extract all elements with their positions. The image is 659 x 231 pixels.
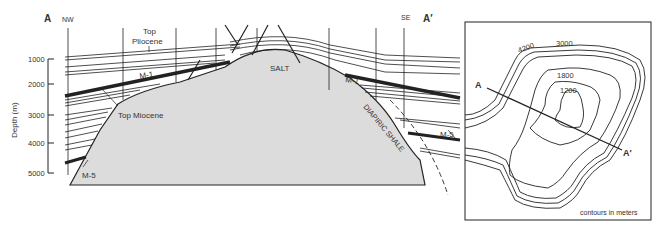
depth-tick: 5000 <box>28 169 45 178</box>
map-section-end-label: A′ <box>623 148 632 158</box>
depth-axis <box>48 59 54 173</box>
direction-nw: NW <box>62 16 74 23</box>
top-miocene-label: Top Miocene <box>118 111 164 120</box>
contour-map <box>465 22 651 220</box>
section-start-label: A <box>44 13 51 24</box>
contour-label-1200: 1200 <box>560 86 577 95</box>
m5-label-right: M-5 <box>440 130 454 139</box>
depth-tick: 3000 <box>28 111 45 120</box>
section-end-label: A′ <box>423 13 433 24</box>
top-pliocene-label: Pliocene <box>132 37 163 46</box>
cross-section <box>48 25 460 195</box>
map-section-start-label: A <box>475 80 482 90</box>
figure: A NW SE A′ 1000 2000 3000 4000 5000 Dept… <box>0 0 659 231</box>
top-pliocene-label: Top <box>143 27 156 36</box>
contour-label-1800: 1800 <box>557 71 574 80</box>
section-line <box>487 88 622 150</box>
depth-tick: 1000 <box>28 55 45 64</box>
direction-se: SE <box>401 14 411 21</box>
contour-label-3000: 3000 <box>556 39 573 48</box>
depth-tick: 2000 <box>28 80 45 89</box>
m5-label-left: M-5 <box>82 171 96 180</box>
contour-units-note: contours in meters <box>580 209 638 216</box>
depth-axis-label: Depth (m) <box>10 102 19 138</box>
depth-tick: 4000 <box>28 139 45 148</box>
salt-label: SALT <box>270 64 290 73</box>
